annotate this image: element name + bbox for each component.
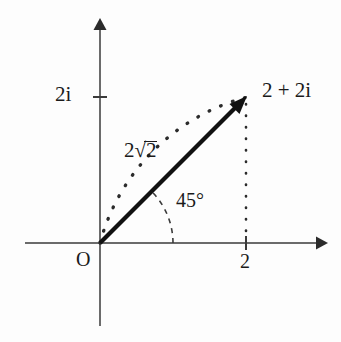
modulus-label: 2√2 <box>124 140 157 161</box>
point-label-2-plus-2i: 2 + 2i <box>262 80 311 101</box>
position-vector-line <box>100 105 238 243</box>
square-root-symbol: √2 <box>135 140 157 161</box>
diagram-canvas <box>0 0 341 342</box>
real-axis-label-2: 2 <box>240 251 250 271</box>
modulus-coefficient: 2 <box>124 138 135 162</box>
angle-arc-45 <box>152 191 173 243</box>
radical-overbar <box>144 141 157 142</box>
real-axis-arrowhead <box>316 237 328 250</box>
imaginary-axis-arrowhead <box>94 18 107 30</box>
angle-label-45-degrees: 45° <box>176 190 204 210</box>
imaginary-axis-label-2i: 2i <box>55 84 71 105</box>
argand-diagram-figure: 2i 2 + 2i 2√2 45° O 2 <box>0 0 341 342</box>
origin-label: O <box>76 249 90 269</box>
